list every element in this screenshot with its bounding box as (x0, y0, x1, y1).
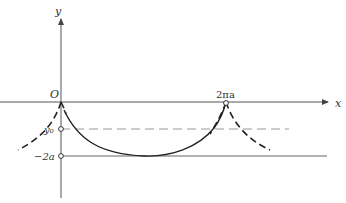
cusp-point (224, 101, 229, 106)
x-axis-label: x (335, 97, 342, 110)
y0-label: y₀ (43, 124, 54, 135)
dashed-curve-origin-right (61, 102, 66, 114)
origin-label: O (50, 88, 59, 101)
dashed-curve-right (226, 102, 270, 150)
cusp-label: 2πa (216, 89, 235, 100)
y0-point (59, 127, 64, 132)
diagram-canvas: y x O 2πa y₀ −2a (0, 0, 346, 203)
minus-2a-point (59, 154, 64, 159)
dashed-curve-left (18, 102, 61, 150)
y-axis-label: y (54, 5, 62, 18)
minus-2a-label: −2a (34, 151, 55, 162)
